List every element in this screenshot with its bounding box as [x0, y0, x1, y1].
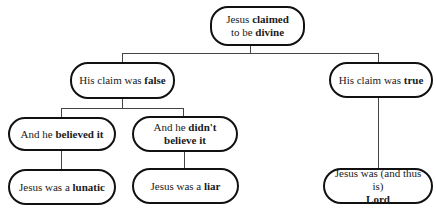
liar-node: Jesus was a liar [132, 168, 239, 204]
true-text-pre: His claim was [339, 74, 404, 86]
root-node: Jesus claimedto be divine [210, 6, 305, 46]
root-text-bold2: divine [255, 26, 284, 38]
didnt-text-pre: And he [154, 121, 189, 133]
true-text-bold: true [404, 74, 424, 86]
believed-text-bold: believed it [55, 128, 103, 140]
false-text-bold: false [144, 74, 165, 86]
liar-text-bold: liar [204, 180, 221, 192]
believed-node: And he believed it [8, 117, 116, 151]
connector-true-lord [378, 98, 379, 168]
lunatic-text-bold: lunatic [73, 181, 105, 193]
connector-to-false [122, 53, 123, 62]
connector-false-down [122, 99, 123, 108]
connector-false-branch [61, 108, 184, 109]
lunatic-text-pre: Jesus was a [19, 181, 72, 193]
false-text-pre: His claim was [79, 74, 144, 86]
connector-believed-lunatic [61, 151, 62, 169]
connector-to-didnt [183, 108, 184, 116]
liar-text-pre: Jesus was a [151, 180, 204, 192]
lunatic-node: Jesus was a lunatic [8, 169, 116, 205]
connector-root-branch [122, 53, 379, 54]
lord-text-pre: Jesus was (and thus is) [335, 167, 421, 192]
connector-to-believed [61, 108, 62, 117]
root-text-pre: Jesus [226, 13, 252, 25]
lord-node: Jesus was (and thus is)Lord [323, 168, 433, 204]
believed-text-pre: And he [21, 128, 56, 140]
didnt-believe-node: And he didn't believe it [132, 116, 238, 152]
connector-didnt-liar [184, 152, 185, 168]
false-node: His claim was false [70, 62, 175, 99]
root-text-pre2: to be [231, 26, 255, 38]
root-text-bold: claimed [252, 13, 289, 25]
connector-to-true [378, 53, 379, 62]
true-node: His claim was true [329, 62, 433, 98]
lord-text-bold: Lord [366, 193, 390, 205]
